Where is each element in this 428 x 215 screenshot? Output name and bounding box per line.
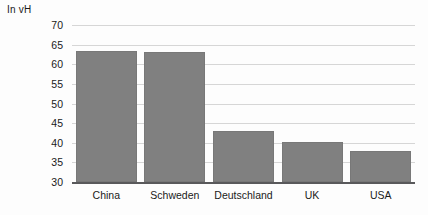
y-axis-tick-label: 70 [51, 19, 63, 31]
bar-slot [209, 25, 278, 182]
x-axis-tick-label: USA [346, 184, 415, 201]
bar-slot [346, 25, 415, 182]
x-axis-tick-label: UK [278, 184, 347, 201]
x-axis-tick-label: Deutschland [209, 184, 278, 201]
y-axis-title: In vH [7, 4, 31, 15]
y-axis-tick-label: 60 [51, 58, 63, 70]
bar-slot [72, 25, 141, 182]
y-axis-tick-label: 50 [51, 98, 63, 110]
y-axis-tick-label: 30 [51, 176, 63, 188]
bar-slot [278, 25, 347, 182]
bar-series [72, 25, 415, 182]
bar[interactable] [76, 51, 137, 182]
x-axis-tick-label: China [72, 184, 141, 201]
y-axis-tick-label: 65 [51, 39, 63, 51]
bar[interactable] [350, 151, 411, 182]
bar[interactable] [144, 52, 205, 182]
plot-area: 706560555045403530 [72, 25, 415, 182]
y-axis-tick-label: 40 [51, 137, 63, 149]
y-axis-tick-label: 55 [51, 78, 63, 90]
bar-chart: In vH 706560555045403530 ChinaSchwedenDe… [0, 0, 428, 215]
y-axis-tick-label: 35 [51, 156, 63, 168]
bar-slot [141, 25, 210, 182]
bar[interactable] [282, 142, 343, 182]
bar[interactable] [213, 131, 274, 182]
x-axis-labels: ChinaSchwedenDeutschlandUKUSA [72, 184, 415, 201]
y-axis-tick-label: 45 [51, 117, 63, 129]
x-axis-tick-label: Schweden [141, 184, 210, 201]
